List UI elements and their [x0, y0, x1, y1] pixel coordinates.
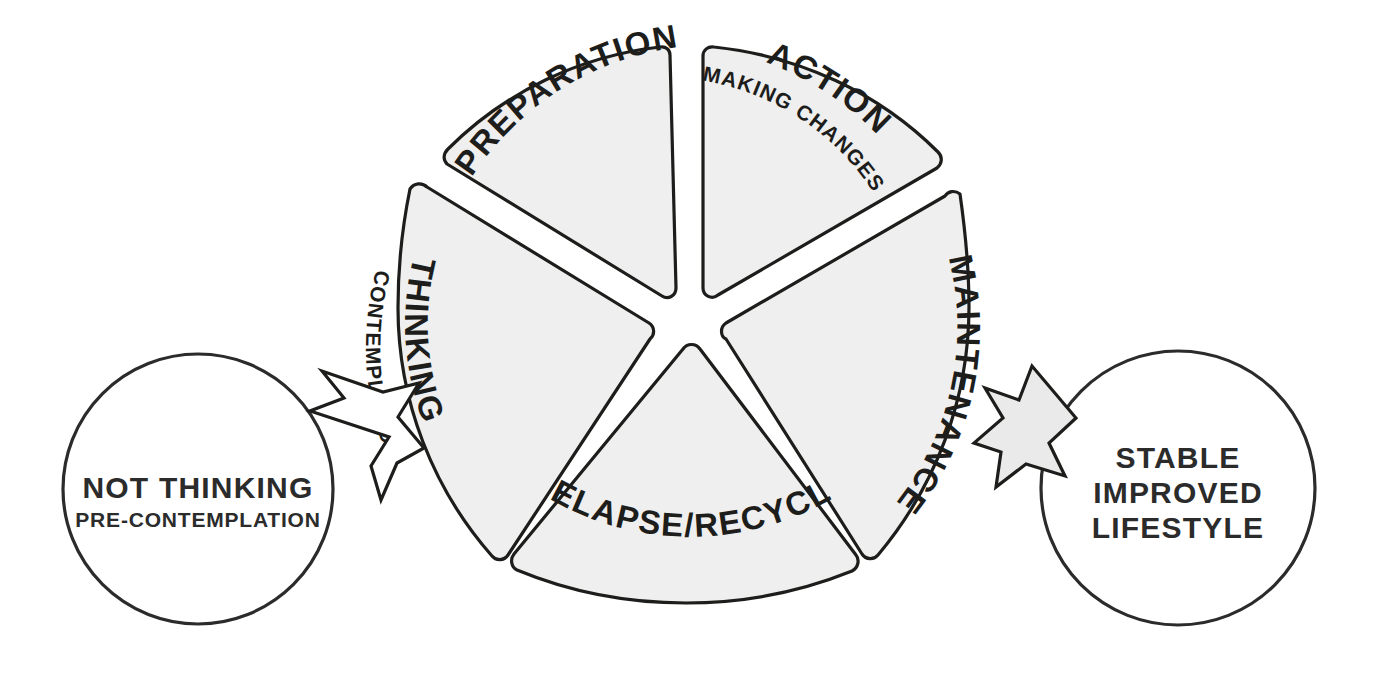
diagram-canvas: PREPARATION ACTION MAKING CHANGES: [0, 0, 1375, 681]
not-thinking-title: NOT THINKING: [82, 471, 313, 504]
stable-lifestyle-line-3: LIFESTYLE: [1092, 511, 1264, 544]
stages-of-change-wheel: PREPARATION ACTION MAKING CHANGES: [0, 0, 1375, 681]
arrow-right-icon-exit[interactable]: [974, 366, 1076, 487]
circle-stable-improved-lifestyle[interactable]: STABLE IMPROVED LIFESTYLE: [1041, 351, 1315, 625]
circle-not-thinking[interactable]: NOT THINKING PRE-CONTEMPLATION: [63, 354, 333, 624]
stable-lifestyle-line-2: IMPROVED: [1093, 476, 1263, 509]
exit-arrow-group[interactable]: [974, 366, 1076, 487]
not-thinking-sublabel: PRE-CONTEMPLATION: [75, 508, 320, 531]
stable-lifestyle-line-1: STABLE: [1116, 441, 1241, 474]
